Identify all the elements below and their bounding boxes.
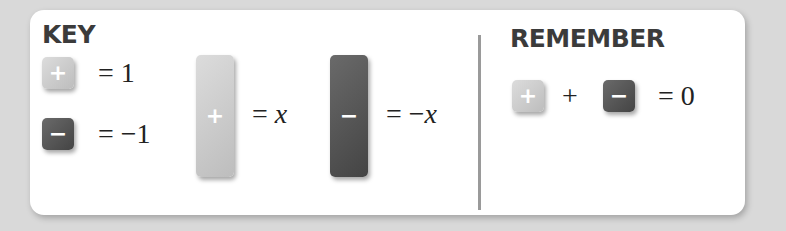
plus-icon: + bbox=[519, 85, 537, 107]
x-positive-value: = x bbox=[252, 98, 287, 130]
section-divider bbox=[478, 35, 481, 210]
plus-icon: + bbox=[206, 105, 224, 127]
unit-negative-tile: − bbox=[42, 118, 74, 150]
zero-pair-result: = 0 bbox=[658, 80, 695, 112]
unit-negative-value: = −1 bbox=[98, 118, 151, 150]
minus-icon: − bbox=[49, 123, 67, 145]
x-negative-tile: − bbox=[330, 55, 368, 177]
unit-positive-tile: + bbox=[42, 57, 74, 89]
minus-icon: − bbox=[610, 85, 628, 107]
zero-pair-positive-tile: + bbox=[512, 80, 544, 112]
x-positive-tile: + bbox=[196, 55, 234, 177]
x-negative-value: = −x bbox=[386, 98, 437, 130]
algebra-tiles-key-card: KEY + = 1 − = −1 + = x − = −x REMEMBER +… bbox=[30, 10, 745, 215]
remember-heading: REMEMBER bbox=[510, 24, 665, 53]
minus-icon: − bbox=[340, 105, 358, 127]
key-heading: KEY bbox=[42, 20, 95, 49]
zero-pair-negative-tile: − bbox=[603, 80, 635, 112]
plus-operator: + bbox=[562, 80, 578, 112]
unit-positive-value: = 1 bbox=[98, 57, 135, 89]
plus-icon: + bbox=[49, 62, 67, 84]
